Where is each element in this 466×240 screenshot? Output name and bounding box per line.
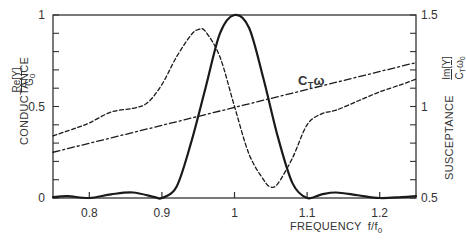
right-frac-num: Im[Y] [441, 56, 452, 80]
data-series [53, 15, 416, 199]
x-tick-label: 1 [231, 206, 238, 220]
right-axis-fraction: Im[Y] CTω0 [441, 56, 466, 80]
y-left-tick-label: 0.5 [28, 100, 45, 114]
right-axis-title-text: SUSCEPTANCE [443, 95, 455, 180]
series-dash-dot-line [53, 63, 416, 153]
y-left-tick-label: 1 [38, 8, 45, 22]
tick-labels: 0.80.911.11.200.510.511.5 [28, 8, 438, 220]
x-tick-label: 1.2 [371, 206, 388, 220]
right-axis-title: SUSCEPTANCE [443, 95, 455, 180]
y-left-tick-label: 0 [38, 191, 45, 205]
y-right-tick-label: 1 [421, 100, 428, 114]
x-tick-label: 0.9 [154, 206, 171, 220]
left-frac-num: Re[Y] [11, 67, 22, 92]
y-right-tick-label: 0.5 [421, 191, 438, 205]
chart-canvas: 0.80.911.11.200.510.511.5 CTω CONDUCTANC… [0, 0, 466, 240]
right-frac-den: CTω0 [454, 56, 466, 79]
ctw-annotation: CTω [298, 73, 325, 90]
y-right-tick-label: 1.5 [421, 8, 438, 22]
x-axis-title: FREQUENCYf/f0 [290, 220, 383, 235]
x-tick-label: 0.8 [81, 206, 98, 220]
x-tick-label: 1.1 [299, 206, 316, 220]
